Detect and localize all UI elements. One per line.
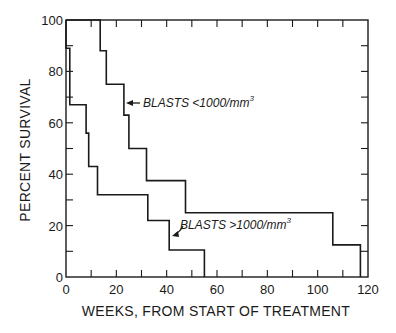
- x-tick-label: 40: [159, 282, 173, 297]
- annotation-high-sup: 3: [286, 216, 291, 225]
- x-tick-label: 80: [260, 282, 274, 297]
- y-tick-labels: 020406080100: [41, 13, 63, 285]
- x-tick-label: 60: [210, 282, 224, 297]
- x-axis-title: WEEKS, FROM START OF TREATMENT: [82, 303, 350, 319]
- x-tick-label: 100: [307, 282, 329, 297]
- x-tick-labels: 020406080100120: [62, 282, 378, 297]
- y-tick-label: 0: [56, 270, 63, 285]
- survival-curves: [66, 20, 360, 277]
- survival-chart: 020406080100120 020406080100 WEEKS, FROM…: [0, 0, 396, 333]
- annotation-low-sup: 3: [249, 94, 254, 103]
- plot-frame: [66, 20, 368, 277]
- y-tick-label: 80: [49, 64, 63, 79]
- y-tick-label: 20: [49, 219, 63, 234]
- annotation-high-text: BLASTS >1000/mm: [180, 218, 286, 232]
- arrowhead-high-icon: [172, 231, 179, 237]
- annotation-low-text: BLASTS <1000/mm: [143, 96, 249, 110]
- y-tick-label: 60: [49, 116, 63, 131]
- y-axis-title: PERCENT SURVIVAL: [17, 78, 33, 221]
- x-tick-label: 20: [109, 282, 123, 297]
- annotation-blasts-high: BLASTS >1000/mm3: [172, 216, 291, 237]
- plot-border: [66, 20, 368, 277]
- curve-blasts-low: [66, 20, 360, 277]
- arrowhead-low-icon: [126, 100, 133, 106]
- axis-ticks: [66, 20, 368, 277]
- svg-text:BLASTS >1000/mm3: BLASTS >1000/mm3: [180, 216, 291, 232]
- x-tick-label: 120: [357, 282, 379, 297]
- svg-text:BLASTS <1000/mm3: BLASTS <1000/mm3: [143, 94, 254, 110]
- annotation-blasts-low: BLASTS <1000/mm3: [126, 94, 254, 110]
- x-tick-label: 0: [62, 282, 69, 297]
- y-tick-label: 100: [41, 13, 63, 28]
- y-tick-label: 40: [49, 167, 63, 182]
